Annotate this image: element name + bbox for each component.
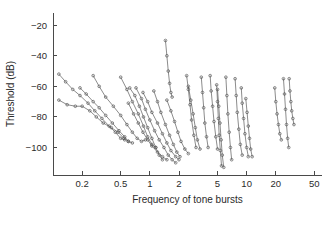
curve-line [167, 100, 188, 153]
curve-line [188, 86, 200, 149]
curve-line [165, 41, 172, 98]
tuning-curve [225, 76, 233, 161]
y-axis-tick-label: −100 [26, 142, 47, 153]
tuning-curve [215, 83, 223, 167]
data-curves-layer [58, 39, 296, 169]
tuning-curve [200, 76, 210, 149]
tuning-curve [282, 77, 290, 148]
x-axis-title: Frequency of tone bursts [132, 194, 243, 205]
curve-line [201, 77, 208, 147]
x-axis-tick-label: 0.2 [76, 178, 89, 189]
axes-layer [53, 13, 322, 175]
x-axis-tick-label: 50 [309, 178, 320, 189]
figure-container: −20−40−60−80−1000.20.5125102050Frequency… [0, 0, 331, 226]
tuning-curve [79, 87, 134, 145]
y-axis-title: Threshold (dB) [5, 61, 16, 127]
y-axis-tick-label: −20 [31, 20, 47, 31]
x-axis-tick-label: 2 [176, 178, 181, 189]
x-axis-tick-label: 20 [271, 178, 282, 189]
tuning-curve [273, 87, 282, 142]
curve-line [226, 77, 232, 160]
tuning-curve [135, 87, 177, 165]
x-axis-tick-label: 10 [241, 178, 252, 189]
y-axis-tick-label: −40 [31, 50, 47, 61]
curve-line [217, 85, 222, 166]
x-axis-tick-label: 5 [215, 178, 220, 189]
tuning-curve-chart: −20−40−60−80−1000.20.5125102050Frequency… [0, 0, 331, 226]
y-axis-tick-label: −60 [31, 81, 47, 92]
tuning-curve [288, 77, 295, 126]
x-axis-tick-label: 0.5 [114, 178, 127, 189]
tuning-curve [164, 39, 173, 98]
x-axis-tick-label: 1 [147, 178, 152, 189]
y-axis-tick-label: −80 [31, 111, 47, 122]
